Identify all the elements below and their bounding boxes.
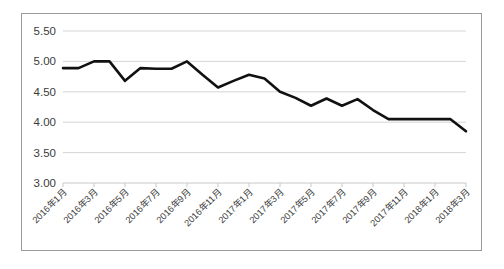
chart-figure: 5.505.004.504.003.503.00 2016年1月2016年3月2… xyxy=(21,13,482,251)
y-axis-tick-label: 5.50 xyxy=(34,25,56,37)
x-axis-tick-label: 2018年3月 xyxy=(433,187,472,226)
data-series-line xyxy=(63,61,466,131)
y-axis-tick-label: 3.00 xyxy=(34,177,56,189)
y-axis-tick-label: 4.00 xyxy=(34,116,56,128)
gridlines xyxy=(63,31,466,183)
y-axis-tick-label: 5.00 xyxy=(34,55,56,67)
line-chart: 5.505.004.504.003.503.00 2016年1月2016年3月2… xyxy=(22,14,481,250)
y-axis-tick-label: 3.50 xyxy=(34,147,56,159)
y-axis-tick-labels: 5.505.004.504.003.503.00 xyxy=(34,25,56,189)
y-axis-tick-label: 4.50 xyxy=(34,86,56,98)
x-axis-ticks xyxy=(63,183,466,187)
x-axis-tick-labels: 2016年1月2016年3月2016年5月2016年7月2016年9月2016年… xyxy=(30,187,472,229)
